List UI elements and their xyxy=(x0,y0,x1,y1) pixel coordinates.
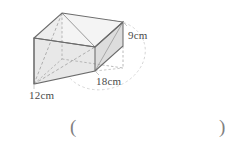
hidden-edge-bottom-right-join xyxy=(95,68,123,71)
answer-row: ( ) xyxy=(0,112,238,146)
answer-blank[interactable] xyxy=(82,120,214,138)
answer-open-paren: ( xyxy=(70,116,76,138)
dimension-label-length: 18cm xyxy=(96,75,121,87)
dimension-label-height: 9cm xyxy=(128,29,148,41)
answer-close-paren: ) xyxy=(219,116,225,138)
figure-container: 9cm 18cm 12cm ( ) xyxy=(0,0,238,146)
dimension-label-width: 12cm xyxy=(29,89,54,101)
